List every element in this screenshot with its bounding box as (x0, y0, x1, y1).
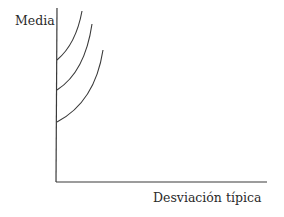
y-axis-label: Media (15, 15, 55, 28)
curve-3 (57, 50, 103, 122)
curve-1 (57, 11, 82, 60)
curve-2 (57, 24, 92, 90)
y-axis (56, 8, 57, 182)
diagram-canvas (0, 0, 284, 217)
mean-stddev-diagram: Media Desviación típica (0, 0, 284, 217)
x-axis-label: Desviación típica (153, 192, 261, 205)
